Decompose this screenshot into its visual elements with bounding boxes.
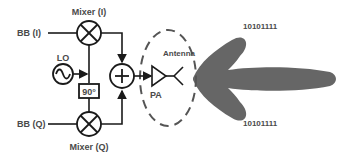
- pa-label: PA: [150, 90, 162, 100]
- radiation-beam: [193, 37, 336, 120]
- bb-i-label: BB (I): [17, 28, 41, 38]
- mixer-q-label: Mixer (Q): [69, 142, 108, 152]
- lo-oscillator-icon: [53, 64, 73, 84]
- antenna-icon: [174, 67, 183, 85]
- lo-label: LO: [57, 53, 70, 63]
- bits-bottom-label: 10101111: [243, 119, 278, 128]
- adder-icon: [110, 64, 134, 88]
- bb-q-label: BB (Q): [17, 119, 46, 129]
- mixer-q-icon: [77, 112, 101, 136]
- transmitter-block-diagram: 90° Mixer (I) Mixer (Q) BB (I) BB (Q) LO…: [0, 0, 340, 155]
- pa-antenna-boundary: [140, 30, 196, 126]
- bits-top-label: 10101111: [243, 22, 278, 31]
- antenna-label: Antenna: [163, 49, 196, 58]
- phase-shift-label: 90°: [82, 87, 96, 97]
- mixer-i-icon: [77, 21, 101, 45]
- mixer-i-label: Mixer (I): [72, 7, 107, 17]
- phase-shifter-box: 90°: [79, 84, 99, 98]
- pa-amplifier-icon: [152, 66, 174, 86]
